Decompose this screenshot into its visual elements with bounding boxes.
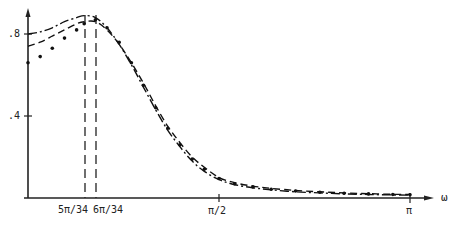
data-point: [82, 22, 86, 26]
y-axis-arrow-icon: [26, 8, 31, 17]
data-point: [408, 193, 412, 197]
data-point: [178, 143, 182, 147]
y-tick-label-08: .8: [8, 29, 20, 39]
data-point: [154, 106, 158, 110]
data-point: [190, 157, 194, 161]
data-point: [51, 47, 55, 51]
data-point: [217, 177, 221, 181]
data-point: [38, 55, 42, 59]
x-axis-arrow-icon: [424, 196, 434, 201]
data-point: [203, 168, 207, 172]
data-point: [75, 28, 79, 32]
data-point: [105, 26, 109, 30]
data-point: [94, 18, 98, 22]
data-point: [130, 61, 134, 65]
data-point: [142, 83, 146, 87]
data-point: [342, 192, 346, 196]
y-tick-label-04: .4: [8, 111, 20, 121]
data-point: [63, 36, 67, 40]
series-layer: [26, 16, 412, 197]
data-point: [391, 193, 395, 197]
x-tick-label-5pi34: 5π/34: [58, 205, 88, 215]
data-point: [233, 182, 237, 186]
data-point: [294, 189, 298, 193]
data-point: [26, 61, 30, 65]
x-axis-label: ω: [441, 192, 448, 203]
data-point: [318, 191, 322, 195]
data-point: [269, 187, 273, 191]
line-chart: [0, 0, 457, 230]
data-point: [367, 192, 371, 196]
data-point: [251, 185, 255, 189]
data-point: [117, 40, 121, 44]
x-tick-label-pi2: π/2: [208, 206, 226, 216]
x-tick-label-6pi34: 6π/34: [93, 205, 123, 215]
data-point: [166, 127, 170, 131]
x-tick-label-pi: π: [406, 206, 412, 216]
